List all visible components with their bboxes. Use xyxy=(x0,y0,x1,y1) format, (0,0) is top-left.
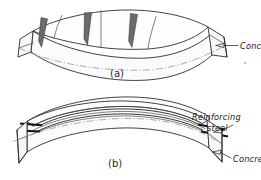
caption-panel-b: (b) xyxy=(108,158,122,169)
figure-svg: Concrete (a) xyxy=(0,0,261,180)
label-reinforcing-steel-line1: Reinforcing xyxy=(192,112,241,122)
label-concrete-a: Concrete xyxy=(240,41,261,51)
figure-container: Concrete (a) xyxy=(0,0,261,180)
scan-speck xyxy=(244,62,246,64)
panel-a-beam: Concrete (a) xyxy=(18,10,261,80)
label-concrete-b: Concrete xyxy=(233,154,261,164)
caption-panel-a: (a) xyxy=(110,68,124,79)
label-reinforcing-steel-line2: steel xyxy=(207,123,228,133)
beam-a-top-face xyxy=(33,10,208,49)
panel-b-beam: Reinforcing steel Concrete (b) xyxy=(13,97,261,169)
